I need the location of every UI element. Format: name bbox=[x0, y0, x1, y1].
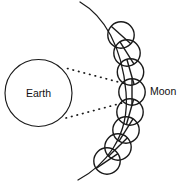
moon-label: Moon bbox=[150, 85, 176, 97]
moon-chain-group bbox=[94, 22, 145, 174]
line-of-sight-group bbox=[66, 69, 124, 119]
moon-position-8 bbox=[94, 148, 120, 174]
lower-line-of-sight bbox=[66, 103, 124, 119]
earth-group: Earth bbox=[5, 60, 72, 127]
diagram-canvas: Earth Moon bbox=[0, 0, 182, 182]
earth-moon-diagram: Earth Moon bbox=[0, 0, 182, 182]
upper-line-of-sight bbox=[68, 69, 125, 84]
earth-label: Earth bbox=[26, 87, 51, 99]
